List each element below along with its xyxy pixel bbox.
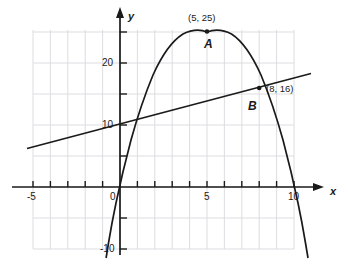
x-tick-label-neg5: -5: [27, 192, 36, 202]
x-tick-label-5: 5: [204, 192, 210, 202]
y-tick-label-10: 10: [102, 120, 113, 130]
intersection-coordinate-label: (8, 16): [266, 84, 293, 94]
y-tick-label-20: 20: [102, 58, 113, 68]
marker-point-a: [205, 29, 210, 34]
x-tick-label-10: 10: [288, 192, 299, 202]
x-axis-label: x: [330, 186, 336, 197]
y-axis-label: y: [128, 11, 134, 22]
vertex-coordinate-label: (5, 25): [188, 13, 215, 23]
y-tick-label-neg10: -10: [100, 244, 114, 254]
coordinate-plane: [0, 0, 348, 271]
point-label-a: A: [204, 38, 213, 50]
y-axis-ticks: [120, 32, 127, 249]
point-label-b: B: [248, 100, 257, 112]
x-tick-label-0: 0: [110, 192, 116, 202]
x-axis-ticks: [33, 181, 294, 187]
marker-point-b: [257, 86, 262, 91]
x-axis: [12, 181, 324, 191]
graph-figure: -5 0 5 10 20 10 -10 x y (5, 25) A (8, 16…: [0, 0, 348, 271]
